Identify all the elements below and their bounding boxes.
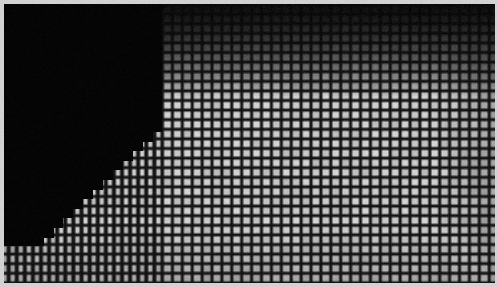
grid-mesh-image (0, 0, 498, 287)
micrograph-figure (0, 0, 498, 287)
